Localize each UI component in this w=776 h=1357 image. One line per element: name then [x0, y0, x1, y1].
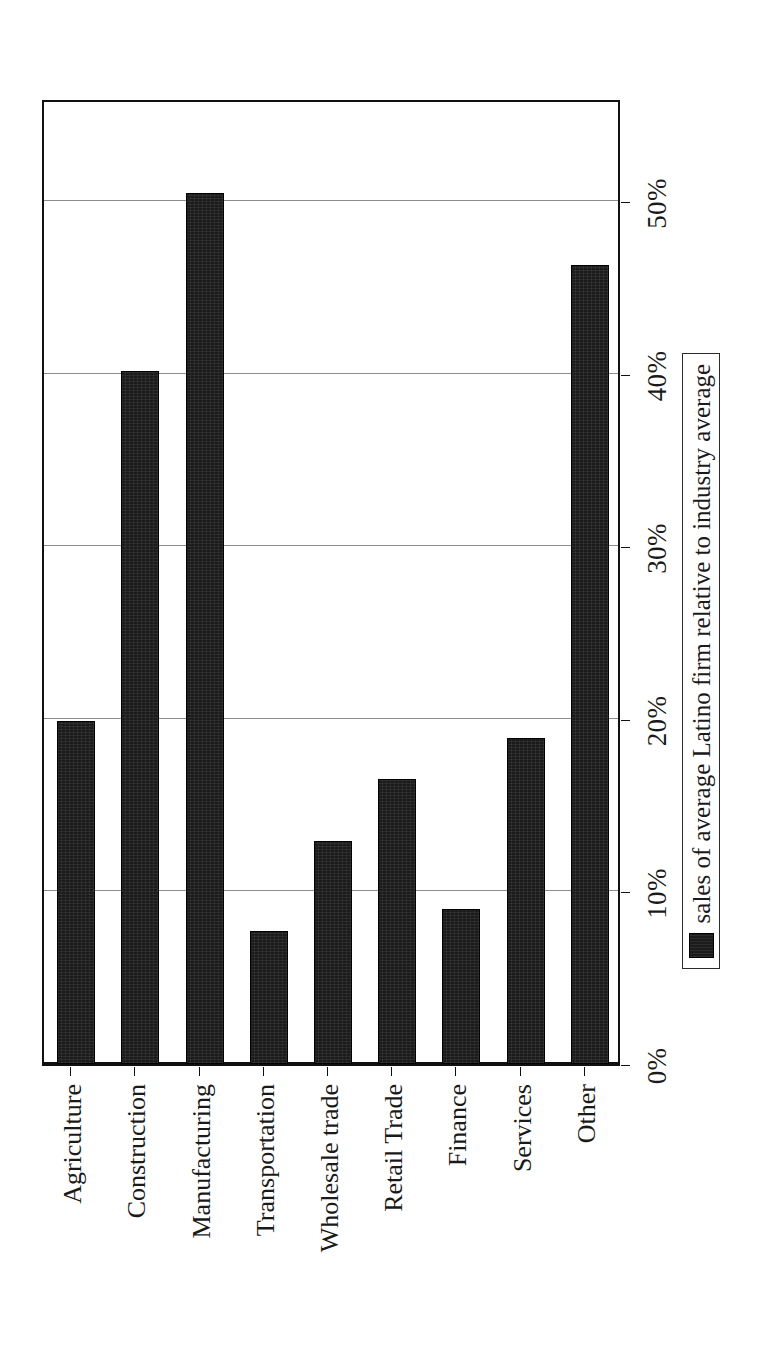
category-label-wholesale-trade: Wholesale trade	[315, 1084, 345, 1357]
tick-30%	[621, 548, 630, 549]
bar-finance	[442, 909, 480, 1064]
category-tick	[134, 1067, 135, 1076]
bar-other	[571, 265, 609, 1064]
value-axis-label: 0%	[642, 1048, 673, 1085]
category-tick	[263, 1067, 264, 1076]
value-axis-label: 20%	[642, 696, 673, 746]
category-label-finance: Finance	[443, 1084, 473, 1357]
tick-10%	[621, 893, 630, 894]
category-label-agriculture: Agriculture	[58, 1084, 88, 1357]
bar-chart: 0%10%20%30%40%50% AgricultureConstructio…	[0, 0, 776, 1357]
plot-area	[42, 100, 620, 1066]
tick-40%	[621, 375, 630, 376]
category-label-construction: Construction	[122, 1084, 152, 1357]
bar-manufacturing	[186, 193, 224, 1064]
category-tick	[70, 1067, 71, 1076]
category-tick	[327, 1067, 328, 1076]
bar-construction	[121, 371, 159, 1064]
bar-transportation	[250, 931, 288, 1064]
value-axis-label: 40%	[642, 351, 673, 401]
category-label-other: Other	[572, 1084, 602, 1357]
category-label-services: Services	[508, 1084, 538, 1357]
category-tick	[520, 1067, 521, 1076]
rotated-chart-stage: 0%10%20%30%40%50% AgricultureConstructio…	[0, 0, 776, 1357]
legend-label: sales of average Latino firm relative to…	[689, 364, 714, 924]
category-label-retail-trade: Retail Trade	[379, 1084, 409, 1357]
category-tick	[199, 1067, 200, 1076]
category-tick	[455, 1067, 456, 1076]
value-axis-label: 50%	[642, 178, 673, 228]
value-axis-label: 30%	[642, 523, 673, 573]
bar-retail-trade	[378, 779, 416, 1064]
legend-swatch-icon	[689, 933, 714, 958]
tick-50%	[621, 203, 630, 204]
category-label-transportation: Transportation	[251, 1084, 281, 1357]
bar-services	[507, 738, 545, 1064]
category-tick	[584, 1067, 585, 1076]
bar-agriculture	[57, 721, 95, 1064]
tick-20%	[621, 720, 630, 721]
gridline-50%	[44, 201, 618, 202]
category-tick	[391, 1067, 392, 1076]
value-axis-label: 10%	[642, 868, 673, 918]
tick-0%	[621, 1065, 630, 1066]
category-label-manufacturing: Manufacturing	[187, 1084, 217, 1357]
bar-wholesale-trade	[314, 841, 352, 1064]
legend: sales of average Latino firm relative to…	[682, 353, 720, 970]
